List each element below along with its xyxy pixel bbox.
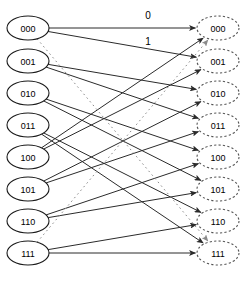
state-node-left-label: 100 — [20, 153, 35, 163]
state-node-right-label: 010 — [210, 89, 225, 99]
state-node-right-label: 011 — [211, 121, 225, 131]
edge-L010-to-R100 — [46, 99, 198, 150]
edge-L110-to-R100 — [46, 164, 198, 215]
edge-L000-to-R001 — [48, 31, 196, 57]
state-node-left-label: 000 — [20, 24, 35, 34]
state-node-right-001[interactable]: 001 — [197, 49, 239, 73]
state-node-right-label: 101 — [210, 185, 225, 195]
state-node-right-110[interactable]: 110 — [197, 209, 239, 233]
edge-L101-to-R010 — [44, 102, 201, 181]
state-node-right-label: 111 — [211, 249, 225, 259]
edge-L001-to-R010 — [48, 64, 196, 89]
state-node-left-000[interactable]: 000 — [7, 16, 49, 40]
state-node-right-100[interactable]: 100 — [197, 145, 239, 169]
state-node-left-label: 001 — [20, 57, 35, 67]
edge-L011-to-R111 — [42, 134, 204, 243]
state-node-left-110[interactable]: 110 — [7, 209, 49, 233]
edge-L010-to-R101 — [44, 101, 201, 180]
edge-L111-to-R110 — [48, 225, 196, 250]
edge-layer — [37, 28, 208, 253]
state-node-left-label: 011 — [21, 121, 35, 131]
state-node-left-011[interactable]: 011 — [7, 113, 49, 137]
state-node-left-label: 110 — [21, 217, 35, 227]
state-node-left-100[interactable]: 100 — [7, 145, 49, 169]
state-node-right-label: 100 — [210, 153, 225, 163]
state-node-right-label: 000 — [210, 24, 225, 34]
edge-L100-to-R000 — [42, 38, 204, 148]
state-node-left-001[interactable]: 001 — [7, 49, 49, 73]
state-node-right-label: 001 — [210, 57, 225, 67]
state-node-left-label: 101 — [20, 185, 35, 195]
state-node-right-010[interactable]: 010 — [197, 81, 239, 105]
state-node-left-label: 010 — [20, 89, 35, 99]
state-node-left-label: 111 — [21, 249, 35, 259]
edge-L100-to-R001 — [44, 70, 201, 149]
edge-label-one: 1 — [145, 36, 151, 47]
state-node-left-101[interactable]: 101 — [7, 177, 49, 201]
state-node-left-010[interactable]: 010 — [7, 81, 49, 105]
state-node-right-000[interactable]: 000 — [197, 16, 239, 40]
edge-L110-to-R101 — [48, 193, 196, 218]
edge-L101-to-R011 — [46, 132, 198, 183]
state-transition-graph: 0000010100111001011101110000010100111001… — [0, 0, 248, 282]
state-node-right-label: 110 — [211, 217, 225, 227]
edge-L011-to-R110 — [44, 133, 201, 212]
state-node-right-011[interactable]: 011 — [197, 113, 239, 137]
diagram-canvas: 0000010100111001011101110000010100111001… — [0, 0, 248, 282]
state-node-right-111[interactable]: 111 — [197, 241, 239, 265]
state-node-left-111[interactable]: 111 — [7, 241, 49, 265]
state-node-right-101[interactable]: 101 — [197, 177, 239, 201]
edge-label-zero: 0 — [145, 10, 151, 21]
